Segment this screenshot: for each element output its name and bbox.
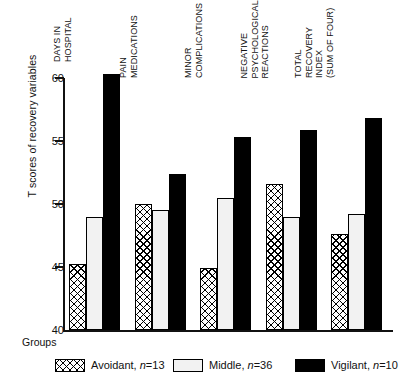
x-axis-title: Groups [22,336,56,348]
category-label-line: PSYCHOLOGICAL [249,0,260,78]
category-label-line: MINOR [183,3,194,78]
bar-vigilant-2 [169,174,186,330]
category-label-line: INDEX [314,8,325,78]
bar-avoidant-3 [200,268,217,330]
category-label-line: DAYS IN [52,17,63,62]
bar-middle-1 [86,217,103,330]
x-axis-line [63,330,393,332]
bar-group [200,78,251,330]
bar-group [331,78,382,330]
bar-avoidant-1 [69,264,86,330]
bar-vigilant-4 [300,130,317,330]
legend-label: Vigilant, n=10 [331,359,398,371]
legend-swatch-avoidant [55,359,85,372]
y-axis-tick: 40 [0,325,64,336]
bar-middle-5 [348,214,365,330]
legend-label: Avoidant, n=13 [91,359,165,371]
bar-middle-3 [217,198,234,330]
legend-label: Middle, n=36 [209,359,272,371]
legend-item-middle: Middle, n=36 [173,356,272,374]
legend-swatch-middle [173,359,203,372]
bar-vigilant-5 [365,118,382,330]
category-label-line: MEDICATIONS [128,15,139,78]
bar-avoidant-4 [266,184,283,330]
chart-legend: Avoidant, n=13Middle, n=36Vigilant, n=10 [55,356,401,378]
bar-avoidant-2 [135,204,152,330]
bar-vigilant-1 [103,74,120,330]
category-label-line: REACTIONS [259,0,270,78]
legend-item-vigilant: Vigilant, n=10 [295,356,398,374]
category-label-line: PAIN [118,15,129,78]
bar-group [135,78,186,330]
bar-group [69,78,120,330]
category-label-line: (SUM OF FOUR) [325,8,336,78]
bar-group [266,78,317,330]
y-axis-tick-label: 40 [38,325,64,336]
y-axis-tick-mark [55,203,64,204]
category-label-line: RECOVERY [304,8,315,78]
legend-item-avoidant: Avoidant, n=13 [55,356,165,374]
bar-chart: T scores of recovery variables 605550454… [0,0,401,382]
category-label-line: TOTAL [293,8,304,78]
bar-middle-2 [152,210,169,330]
category-label-line: NEGATIVE [238,0,249,78]
category-label-line: HOSPITAL [63,17,74,62]
y-axis-tick-mark [55,77,64,78]
bar-middle-4 [283,217,300,330]
y-axis-tick-mark [55,140,64,141]
y-axis-tick-mark [55,266,64,267]
legend-swatch-vigilant [295,359,325,372]
bar-avoidant-5 [331,234,348,330]
category-label-line: COMPLICATIONS [194,3,205,78]
bar-vigilant-3 [234,137,251,330]
plot-area [64,78,393,330]
